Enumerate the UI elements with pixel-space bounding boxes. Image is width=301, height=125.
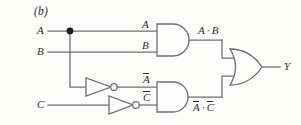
circuit-schematic (0, 0, 301, 125)
and2-dot-separator: · (200, 101, 207, 113)
or-gate-body (230, 49, 262, 85)
output-label-y: Y (284, 61, 290, 72)
and-gate-2-body (157, 82, 188, 112)
input-label-a: A (37, 25, 44, 36)
and-gate-1-body (157, 24, 189, 56)
logic-circuit-figure: (b) A B C A B A C A·B A·C Y (0, 0, 301, 125)
overbar-a-1: A (143, 73, 150, 85)
not-gate-c-body (109, 96, 133, 114)
and1-term-a: A (198, 24, 205, 36)
input-label-b: B (37, 46, 44, 57)
and-gate-2-output-label: A·C (193, 101, 214, 113)
and-gate-1-output-label: A·B (198, 25, 219, 36)
input-label-c: C (37, 99, 45, 110)
and-gate-1-input-label-b: B (142, 40, 149, 51)
junction-dot-a (67, 28, 74, 35)
panel-label: (b) (34, 6, 48, 18)
and1-dot-separator: · (205, 24, 212, 36)
and2-term-a-bar: A (193, 101, 200, 113)
wire-a-branch (70, 31, 85, 87)
and-gate-2-input-label-a-bar: A (143, 73, 150, 85)
overbar-c-1: C (143, 91, 151, 103)
not-gate-c-bubble (133, 102, 140, 109)
and-gate-2-input-label-c-bar: C (143, 91, 151, 103)
and-gate-1-input-label-a: A (142, 19, 149, 30)
and2-term-c-bar: C (207, 101, 215, 113)
and1-term-b: B (212, 24, 219, 36)
not-gate-a-body (86, 78, 111, 96)
wire-or-input-bottom (222, 76, 234, 97)
not-gate-a-bubble (111, 84, 118, 91)
